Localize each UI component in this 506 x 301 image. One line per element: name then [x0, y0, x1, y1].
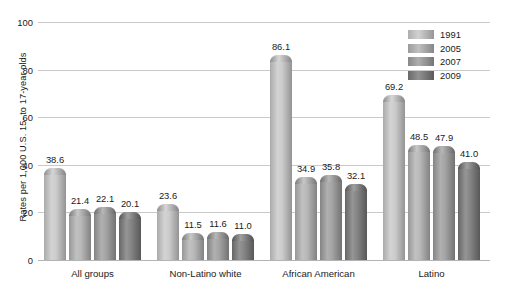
category-label: All groups [71, 268, 114, 279]
bar [408, 145, 431, 260]
y-tick-label-80: 80 [23, 64, 33, 75]
bar [232, 234, 255, 260]
bar [157, 204, 180, 260]
bar-value-label: 23.6 [159, 190, 177, 201]
legend-item[interactable]: 2005 [408, 42, 490, 56]
y-tick-label-60: 60 [23, 112, 33, 123]
y-tick-label-20: 20 [23, 207, 33, 218]
bar-value-label: 32.1 [347, 170, 365, 181]
bar-cap [458, 162, 481, 169]
bar-value-label: 48.5 [410, 131, 428, 142]
bar [320, 175, 343, 260]
bar-value-label: 20.1 [121, 198, 139, 209]
bar-value-label: 86.1 [272, 41, 290, 52]
bar-value-label: 11.0 [234, 220, 252, 231]
bar-chart: Rates per 1,000 U.S. 15- to 17-year olds… [0, 0, 506, 301]
y-tick-label-40: 40 [23, 159, 33, 170]
legend-label: 2007 [440, 57, 461, 66]
bar [207, 232, 230, 260]
bar [383, 95, 406, 260]
bar-cap [383, 95, 406, 102]
category-label: Latino [418, 268, 444, 279]
bar-value-label: 11.6 [209, 218, 227, 229]
gridline-0: 0 [38, 260, 490, 261]
bar [458, 162, 481, 260]
bar-value-label: 34.9 [297, 163, 315, 174]
bar-value-label: 69.2 [385, 81, 403, 92]
bar [44, 168, 67, 260]
legend-item[interactable]: 1991 [408, 28, 490, 42]
legend-swatch [408, 71, 434, 80]
y-tick-label-0: 0 [28, 255, 33, 266]
legend-swatch [408, 30, 434, 39]
y-axis-title: Rates per 1,000 U.S. 15- to 17-year olds [18, 12, 28, 262]
bar-value-label: 41.0 [460, 148, 478, 159]
bar-cap [433, 146, 456, 153]
bar-cap [270, 55, 293, 62]
bar-cap [44, 168, 67, 175]
bar-cap [69, 209, 92, 216]
bar [270, 55, 293, 260]
bar-cap [94, 207, 117, 214]
legend-label: 2005 [440, 44, 461, 53]
bar [94, 207, 117, 260]
legend-item[interactable]: 2009 [408, 69, 490, 83]
bar-cap [182, 233, 205, 240]
y-tick-label-100: 100 [17, 17, 33, 28]
bar [119, 212, 142, 260]
bar-value-label: 22.1 [96, 193, 114, 204]
category-label: Non-Latino white [170, 268, 242, 279]
legend: 1991200520072009 [408, 28, 490, 82]
bar [182, 233, 205, 260]
bar-cap [232, 234, 255, 241]
bar-value-label: 38.6 [46, 154, 64, 165]
bar-value-label: 35.8 [322, 161, 340, 172]
bar-cap [295, 177, 318, 184]
bar [433, 146, 456, 260]
legend-item[interactable]: 2007 [408, 55, 490, 69]
bar [345, 184, 368, 260]
bar-cap [207, 232, 230, 239]
bar [295, 177, 318, 260]
bar-cap [157, 204, 180, 211]
legend-swatch [408, 44, 434, 53]
bar-value-label: 11.5 [184, 219, 202, 230]
bar-cap [119, 212, 142, 219]
legend-swatch [408, 57, 434, 66]
legend-label: 1991 [440, 30, 461, 39]
bar-cap [320, 175, 343, 182]
bar-value-label: 21.4 [71, 195, 89, 206]
legend-label: 2009 [440, 71, 461, 80]
bar [69, 209, 92, 260]
category-label: African American [282, 268, 355, 279]
bar-value-label: 47.9 [435, 132, 453, 143]
bar-cap [345, 184, 368, 191]
bar-cap [408, 145, 431, 152]
